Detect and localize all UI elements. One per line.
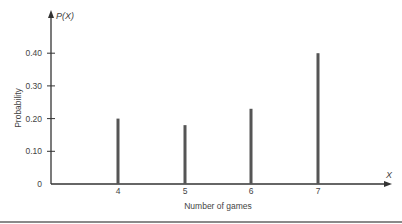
y-tick-label: 0.10 <box>25 146 42 156</box>
x-axis-arrow-icon <box>384 181 392 187</box>
bottom-rule <box>0 221 402 223</box>
bar-5 <box>184 125 187 184</box>
x-ticks: 4567 <box>116 186 321 196</box>
y-tick-label: 0.40 <box>25 48 42 58</box>
x-tick-label: 6 <box>249 186 254 196</box>
y-tick-label: 0.30 <box>25 81 42 91</box>
y-axis-title: Probability <box>13 87 23 127</box>
bar-6 <box>250 109 253 184</box>
y-tick-label: 0.20 <box>25 114 42 124</box>
x-var-label: X <box>385 170 393 180</box>
x-tick-label: 7 <box>316 186 321 196</box>
x-tick-label: 4 <box>116 186 121 196</box>
bar-7 <box>317 53 320 184</box>
x-tick-label: 5 <box>183 186 188 196</box>
bars <box>117 53 320 184</box>
y-tick-label: 0 <box>37 179 42 189</box>
y-var-label: P(X) <box>56 11 74 21</box>
x-axis-title: Number of games <box>184 201 252 211</box>
probability-distribution-chart: P(X) X 00.100.200.300.40 4567 Probabilit… <box>0 0 402 224</box>
bar-4 <box>117 119 120 184</box>
y-axis-arrow-icon <box>48 10 54 18</box>
